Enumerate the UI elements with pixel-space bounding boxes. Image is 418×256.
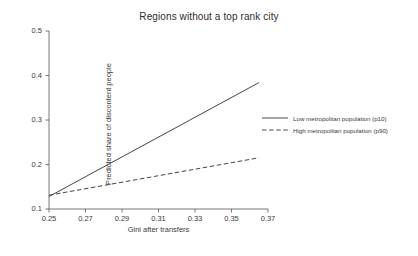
y-tick-label: 0.3 — [16, 116, 42, 124]
legend-item: High metropolitan population (p90) — [262, 124, 388, 136]
legend-dashed-line-icon — [262, 126, 288, 134]
legend-label: High metropolitan population (p90) — [293, 127, 388, 134]
x-tick-label: 0.35 — [217, 215, 247, 223]
axis-lines — [49, 31, 268, 209]
x-tick-label: 0.37 — [253, 215, 283, 223]
chart-legend: Low metropolitan population (p10) High m… — [262, 112, 388, 136]
series-line — [49, 158, 259, 195]
x-tick-label: 0.27 — [71, 215, 101, 223]
chart-container: Regions without a top rank city Predicte… — [0, 0, 418, 256]
y-tick-label: 0.4 — [16, 72, 42, 80]
x-tick-label: 0.29 — [107, 215, 137, 223]
y-tick-label: 0.2 — [16, 161, 42, 169]
x-tick-label: 0.31 — [144, 215, 174, 223]
y-tick-label: 0.1 — [16, 205, 42, 213]
legend-label: Low metropolitan population (p10) — [293, 115, 387, 122]
legend-item: Low metropolitan population (p10) — [262, 112, 388, 124]
axis-ticks — [46, 31, 269, 213]
series-line — [49, 83, 259, 197]
data-series — [49, 83, 259, 197]
y-tick-label: 0.5 — [16, 27, 42, 35]
x-tick-label: 0.25 — [34, 215, 64, 223]
legend-solid-line-icon — [262, 114, 288, 122]
x-tick-label: 0.33 — [180, 215, 210, 223]
